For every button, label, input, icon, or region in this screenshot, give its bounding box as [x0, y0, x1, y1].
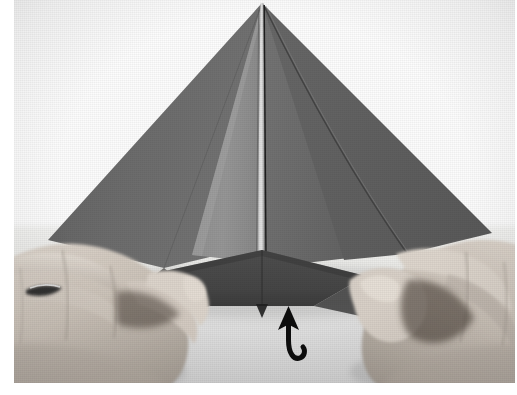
tuck-under-arrow	[262, 306, 322, 368]
origami-step-photo	[14, 0, 515, 383]
right-hand	[336, 228, 515, 383]
page-root	[0, 0, 517, 395]
left-hand	[14, 232, 208, 383]
